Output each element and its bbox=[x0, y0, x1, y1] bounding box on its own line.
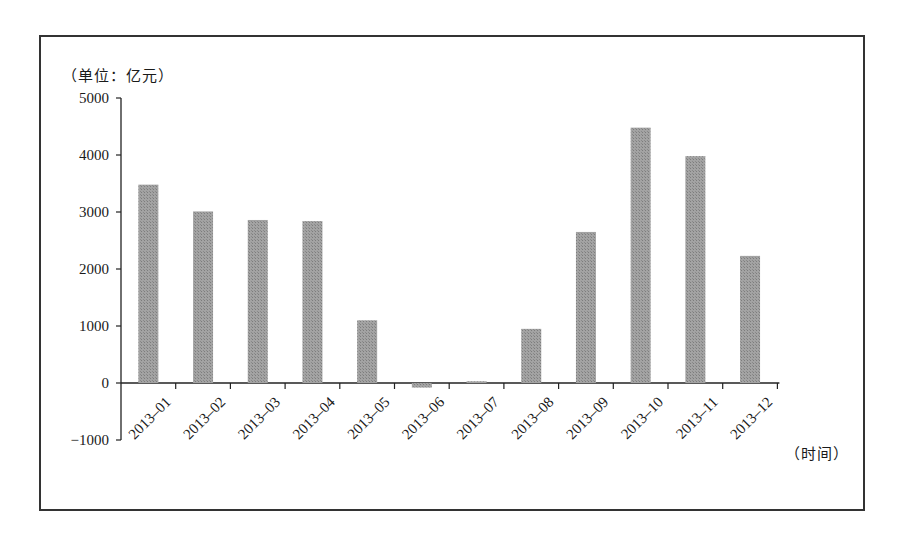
y-tick-label: −1000 bbox=[71, 432, 109, 448]
x-tick-label: 2013–08 bbox=[508, 394, 556, 442]
bar-2013-03 bbox=[248, 220, 268, 383]
x-tick-label: 2013–07 bbox=[454, 393, 503, 442]
bar-2013-09 bbox=[576, 232, 596, 383]
bar-2013-05 bbox=[357, 320, 377, 383]
bar-2013-08 bbox=[521, 329, 541, 383]
y-axis: −1000010002000300040005000 bbox=[71, 90, 121, 448]
bar-2013-04 bbox=[302, 221, 322, 383]
x-tick-label: 2013–03 bbox=[235, 394, 283, 442]
x-tick-label: 2013–12 bbox=[727, 394, 775, 442]
x-tick-label: 2013–05 bbox=[344, 394, 392, 442]
x-tick-label: 2013–02 bbox=[180, 394, 228, 442]
x-tick-label: 2013–04 bbox=[289, 393, 338, 442]
bar-2013-10 bbox=[631, 128, 651, 383]
x-tick-label: 2013–09 bbox=[563, 394, 611, 442]
y-tick-label: 5000 bbox=[79, 90, 109, 106]
x-tick-label: 2013–01 bbox=[125, 394, 173, 442]
x-axis bbox=[121, 383, 779, 389]
bar-2013-02 bbox=[193, 211, 213, 383]
bar-2013-06 bbox=[412, 383, 432, 388]
x-tick-label: 2013–10 bbox=[618, 394, 666, 442]
x-tick-label: 2013–06 bbox=[399, 393, 448, 442]
y-tick-label: 2000 bbox=[79, 261, 109, 277]
bar-chart: −1000010002000300040005000 2013–012013–0… bbox=[0, 0, 904, 549]
y-tick-label: 0 bbox=[102, 375, 110, 391]
bars bbox=[138, 128, 760, 388]
y-tick-label: 4000 bbox=[79, 147, 109, 163]
bar-2013-07 bbox=[467, 381, 487, 383]
y-tick-label: 3000 bbox=[79, 204, 109, 220]
bar-2013-12 bbox=[740, 256, 760, 383]
x-tick-labels: 2013–012013–022013–032013–042013–052013–… bbox=[125, 393, 775, 442]
y-tick-label: 1000 bbox=[79, 318, 109, 334]
x-tick-label: 2013–11 bbox=[673, 394, 721, 442]
bar-2013-11 bbox=[685, 156, 705, 383]
bar-2013-01 bbox=[138, 185, 158, 383]
